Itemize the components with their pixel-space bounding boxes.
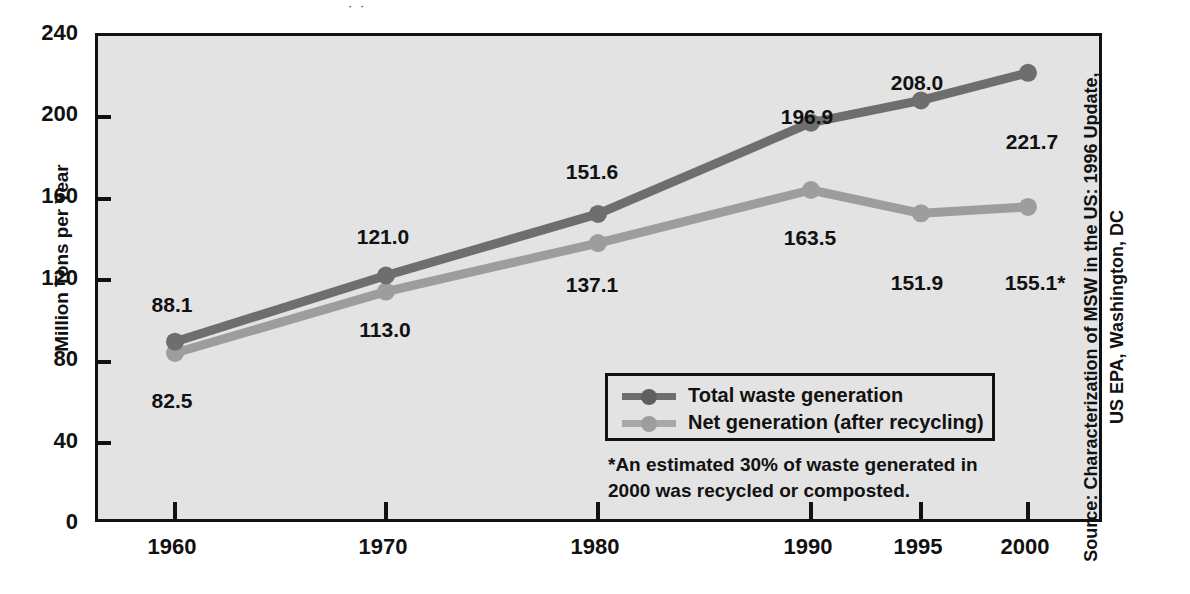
y-tick-label-80: 80	[16, 346, 78, 372]
chart-figure: · · Million Tons per Year 240 200 160 12…	[0, 0, 1190, 594]
legend-item-net: Net generation (after recycling)	[622, 409, 992, 436]
data-label-net-2000: 155.1*	[1005, 271, 1066, 295]
footnote: *An estimated 30% of waste generated in …	[608, 452, 1028, 503]
data-label-net-1995: 151.9	[891, 271, 944, 295]
data-label-total-1995: 208.0	[891, 71, 944, 95]
legend-swatch-total-icon	[622, 385, 676, 407]
data-label-net-1990: 163.5	[784, 226, 837, 250]
data-label-total-1970: 121.0	[357, 225, 410, 249]
source-line-2: US EPA, Washington, DC	[1104, 27, 1130, 594]
x-tick-label-2000: 2000	[965, 534, 1085, 560]
data-label-total-1980: 151.6	[566, 160, 619, 184]
data-label-total-1960: 88.1	[152, 293, 193, 317]
x-tick-label-1960: 1960	[112, 534, 232, 560]
x-tick-label-1990: 1990	[748, 534, 868, 560]
legend: Total waste generation Net generation (a…	[605, 373, 995, 441]
data-label-net-1980: 137.1	[566, 273, 619, 297]
source-note: Source: Characterization of MSW in the U…	[1078, 27, 1130, 594]
y-tick-label-0: 0	[16, 509, 78, 535]
footnote-line-1: *An estimated 30% of waste generated in	[608, 452, 1028, 478]
title-remnant: · ·	[348, 0, 366, 13]
legend-swatch-net-icon	[622, 412, 676, 434]
source-line-1: Source: Characterization of MSW in the U…	[1078, 27, 1104, 594]
data-label-total-2000: 221.7	[1006, 130, 1059, 154]
footnote-line-2: 2000 was recycled or composted.	[608, 478, 1028, 504]
legend-label-total: Total waste generation	[688, 384, 903, 407]
x-tick-label-1970: 1970	[323, 534, 443, 560]
data-label-net-1960: 82.5	[152, 389, 193, 413]
x-tick-label-1995: 1995	[858, 534, 978, 560]
legend-item-total: Total waste generation	[622, 382, 992, 409]
data-label-total-1990: 196.9	[781, 105, 834, 129]
y-tick-label-120: 120	[16, 265, 78, 291]
legend-label-net: Net generation (after recycling)	[688, 411, 984, 434]
y-tick-label-240: 240	[16, 20, 78, 46]
y-tick-label-40: 40	[16, 428, 78, 454]
x-tick-label-1980: 1980	[535, 534, 655, 560]
y-tick-label-200: 200	[16, 101, 78, 127]
y-axis-tick-labels: 240 200 160 120 80 40 0	[8, 0, 78, 594]
y-tick-label-160: 160	[16, 183, 78, 209]
data-label-net-1970: 113.0	[359, 318, 410, 342]
